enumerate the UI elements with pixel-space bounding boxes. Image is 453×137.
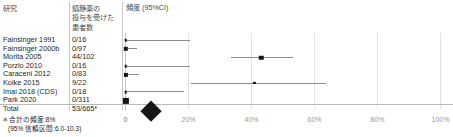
x-axis-tick-100: 100% <box>432 116 450 123</box>
point-estimate-marker <box>123 47 127 51</box>
gridline-40 <box>251 33 252 109</box>
forest-plot: 研究 鎮静薬の 投与を受けた 患者数 頻度 (95%CI) Fainsinger… <box>0 0 453 137</box>
confidence-interval-line <box>126 40 191 41</box>
point-estimate-marker <box>124 65 127 68</box>
point-estimate-marker <box>259 55 264 60</box>
point-estimate-marker <box>122 97 128 103</box>
gridline-20 <box>188 33 189 109</box>
point-estimate-marker <box>124 39 127 42</box>
x-axis-tick-40: 40% <box>244 116 258 123</box>
confidence-interval-line <box>126 91 184 92</box>
x-axis-tick-60: 60% <box>307 116 321 123</box>
point-estimate-marker <box>253 82 255 84</box>
gridline-60 <box>314 33 315 109</box>
summary-separator <box>0 104 453 105</box>
x-axis-tick-20: 20% <box>181 116 195 123</box>
x-axis-tick-80: 80% <box>370 116 384 123</box>
forest-graphic: 020%40%60%80%100% <box>0 0 453 137</box>
gridline-80 <box>377 33 378 109</box>
x-axis-tick-0: 0 <box>124 116 128 123</box>
point-estimate-marker <box>124 91 127 94</box>
gridline-100 <box>440 33 441 109</box>
confidence-interval-line <box>126 66 191 67</box>
point-estimate-marker <box>123 73 127 77</box>
confidence-interval-line <box>191 83 326 84</box>
